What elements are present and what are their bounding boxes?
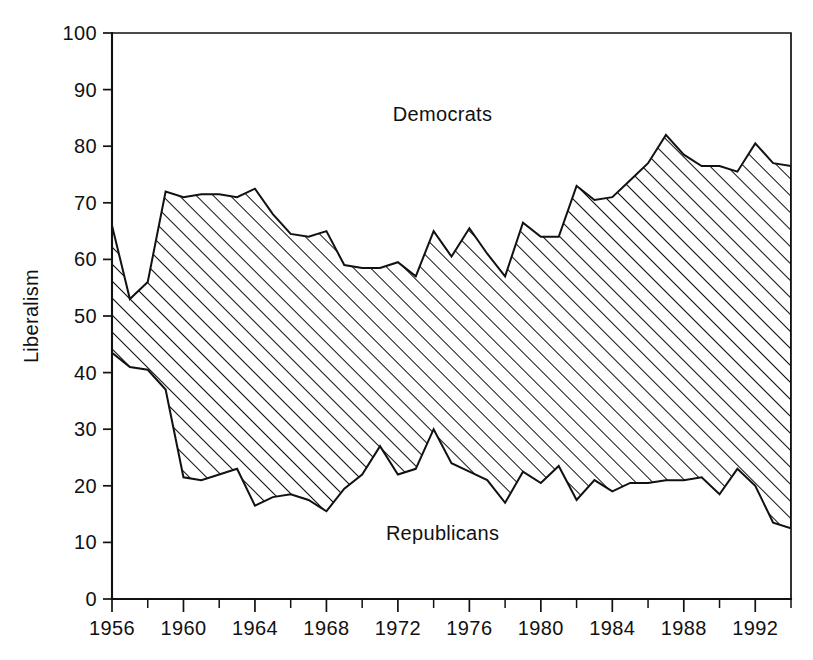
liberalism-area-chart: 0102030405060708090100 19561960196419681… xyxy=(0,0,813,660)
y-ticklabel: 10 xyxy=(74,531,97,553)
x-ticklabel: 1960 xyxy=(160,617,206,639)
y-axis-title: Liberalism xyxy=(20,269,42,363)
x-ticklabel: 1976 xyxy=(446,617,492,639)
y-axis-ticklabels: 0102030405060708090100 xyxy=(62,22,97,610)
y-ticklabel: 90 xyxy=(74,79,97,101)
y-ticklabel: 60 xyxy=(74,248,97,270)
y-ticklabel: 100 xyxy=(62,22,97,44)
x-ticklabel: 1992 xyxy=(732,617,778,639)
x-ticklabel: 1980 xyxy=(518,617,564,639)
x-ticklabel: 1964 xyxy=(232,617,278,639)
y-ticklabel: 50 xyxy=(74,305,97,327)
chart-figure: 0102030405060708090100 19561960196419681… xyxy=(0,0,813,660)
y-axis-ticks xyxy=(103,33,112,599)
x-ticklabel: 1972 xyxy=(375,617,421,639)
y-ticklabel: 30 xyxy=(74,418,97,440)
y-ticklabel: 70 xyxy=(74,192,97,214)
y-ticklabel: 40 xyxy=(74,362,97,384)
y-ticklabel: 0 xyxy=(85,588,97,610)
x-ticklabel: 1968 xyxy=(303,617,349,639)
republicans-annotation-label: Republicans xyxy=(386,522,499,544)
x-ticklabel: 1988 xyxy=(661,617,707,639)
x-axis-ticks xyxy=(112,599,791,612)
x-ticklabel: 1984 xyxy=(589,617,635,639)
y-ticklabel: 20 xyxy=(74,475,97,497)
x-ticklabel: 1956 xyxy=(89,617,135,639)
y-ticklabel: 80 xyxy=(74,135,97,157)
democrats-annotation-label: Democrats xyxy=(393,103,492,125)
x-axis-ticklabels: 1956196019641968197219761980198419881992 xyxy=(89,617,778,639)
